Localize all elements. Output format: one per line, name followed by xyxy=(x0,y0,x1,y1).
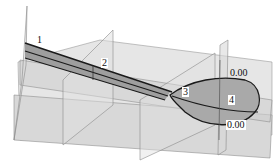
section-label-3: 3 xyxy=(182,87,189,97)
section-label-4: 4 xyxy=(228,95,235,105)
dimension-label-top: 0.00 xyxy=(230,68,248,78)
section-label-1: 1 xyxy=(37,35,42,45)
section-label-2: 2 xyxy=(101,58,108,68)
diagram-canvas: 1 2 3 4 0.00 0.00 xyxy=(0,0,278,167)
dimension-label-bottom: 0.00 xyxy=(226,120,246,130)
surface-diagram xyxy=(0,0,278,167)
